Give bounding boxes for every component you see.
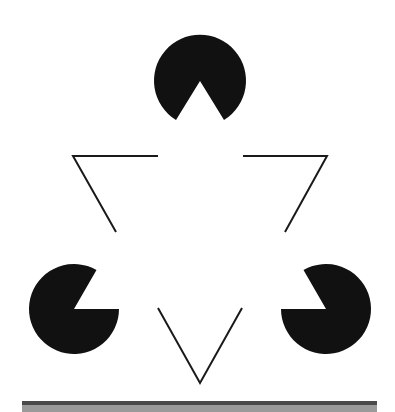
pacman-top [154,35,246,120]
kanizsa-figure [0,0,395,412]
outline-corner-left [73,156,158,232]
pacman-bottom-left [29,264,119,354]
base-bar-light [22,405,377,412]
outline-corner-right [243,156,327,232]
pacman-bottom-right [281,264,371,354]
outline-corner-bottom [158,308,242,383]
